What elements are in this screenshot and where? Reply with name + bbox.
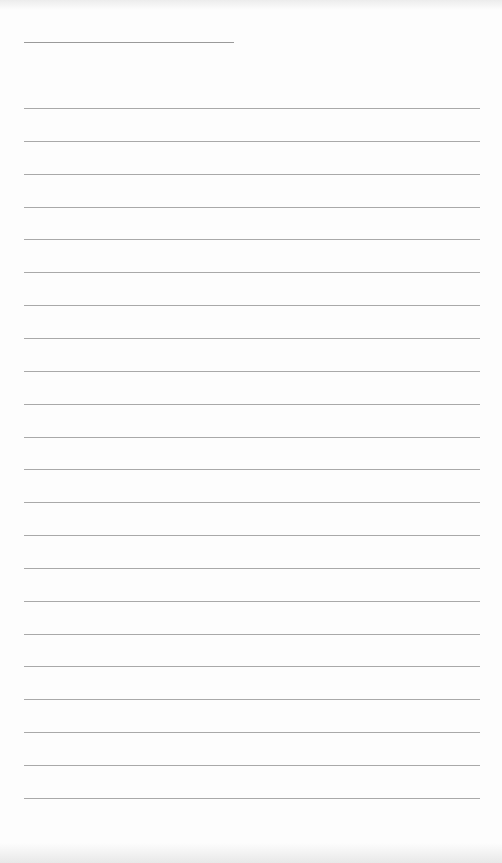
ruled-line <box>24 437 480 438</box>
ruled-line <box>24 601 480 602</box>
ruled-line <box>24 141 480 142</box>
ruled-line <box>24 404 480 405</box>
paper-top-edge <box>0 0 502 10</box>
ruled-line <box>24 469 480 470</box>
ruled-line <box>24 634 480 635</box>
ruled-line <box>24 174 480 175</box>
ruled-line <box>24 371 480 372</box>
ruled-line <box>24 305 480 306</box>
ruled-line <box>24 666 480 667</box>
ruled-line <box>24 699 480 700</box>
ruled-line <box>24 239 480 240</box>
ruled-line <box>24 502 480 503</box>
ruled-line <box>24 338 480 339</box>
ruled-line <box>24 798 480 799</box>
paper-bottom-edge <box>0 843 502 863</box>
ruled-line <box>24 108 480 109</box>
ruled-line <box>24 568 480 569</box>
ruled-line <box>24 732 480 733</box>
ruled-line <box>24 535 480 536</box>
header-line <box>24 42 234 43</box>
ruled-line <box>24 765 480 766</box>
ruled-line <box>24 272 480 273</box>
ruled-line <box>24 207 480 208</box>
